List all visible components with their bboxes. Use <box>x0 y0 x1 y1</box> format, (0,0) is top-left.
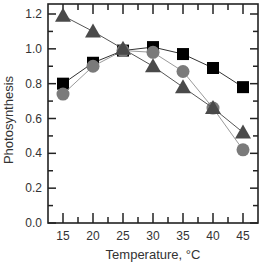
y-axis-label: Photosynthesis <box>1 75 16 164</box>
data-series <box>55 8 251 157</box>
y-tick-label: 1.2 <box>25 7 42 21</box>
x-tick-label: 45 <box>236 229 250 243</box>
x-tick-label: 40 <box>206 229 220 243</box>
plot-frame <box>48 4 258 223</box>
x-tick-label: 30 <box>146 229 160 243</box>
photosynthesis-temperature-chart: 0.00.20.40.60.81.01.215202530354045 Phot… <box>0 0 264 268</box>
y-tick-label: 0.6 <box>25 112 42 126</box>
x-tick-label: 20 <box>86 229 100 243</box>
x-tick-label: 35 <box>176 229 190 243</box>
triangle-marker <box>175 79 191 93</box>
circle-marker <box>147 46 160 59</box>
x-tick-label: 25 <box>116 229 130 243</box>
square-marker <box>177 48 189 60</box>
y-tick-label: 0.4 <box>25 146 42 160</box>
circle-marker <box>87 60 100 73</box>
square-marker <box>207 62 219 74</box>
circle-marker <box>177 65 190 78</box>
triangle-marker <box>55 8 71 22</box>
plot-axes: 0.00.20.40.60.81.01.215202530354045 <box>25 4 258 243</box>
circle-marker <box>237 143 250 156</box>
x-tick-label: 15 <box>56 229 70 243</box>
y-tick-label: 1.0 <box>25 42 42 56</box>
y-tick-label: 0.8 <box>25 77 42 91</box>
x-axis-label: Temperature, °C <box>106 247 201 262</box>
y-tick-label: 0.0 <box>25 216 42 230</box>
triangle-marker <box>145 58 161 72</box>
square-marker <box>237 81 249 93</box>
y-tick-label: 0.2 <box>25 181 42 195</box>
circle-marker <box>57 88 70 101</box>
triangle-marker <box>85 23 101 37</box>
triangle-marker <box>235 124 251 138</box>
